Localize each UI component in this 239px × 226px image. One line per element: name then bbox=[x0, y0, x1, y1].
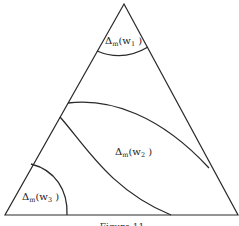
region-w2-upper-boundary bbox=[68, 102, 209, 168]
region-w3-label: Δm(w3 ) bbox=[22, 191, 59, 204]
figure-caption: Figure 11 bbox=[100, 222, 145, 226]
region-w1-label: Δm(w1 ) bbox=[105, 35, 142, 48]
region-w3-boundary bbox=[31, 164, 67, 215]
ternary-diagram: Δm(w1 ) Δm(w2 ) Δm(w3 ) Figure 11 bbox=[0, 0, 239, 226]
region-w1-boundary bbox=[97, 47, 148, 56]
region-w2-label: Δm(w2 ) bbox=[115, 146, 152, 159]
region-w2-lower-boundary bbox=[60, 117, 171, 215]
